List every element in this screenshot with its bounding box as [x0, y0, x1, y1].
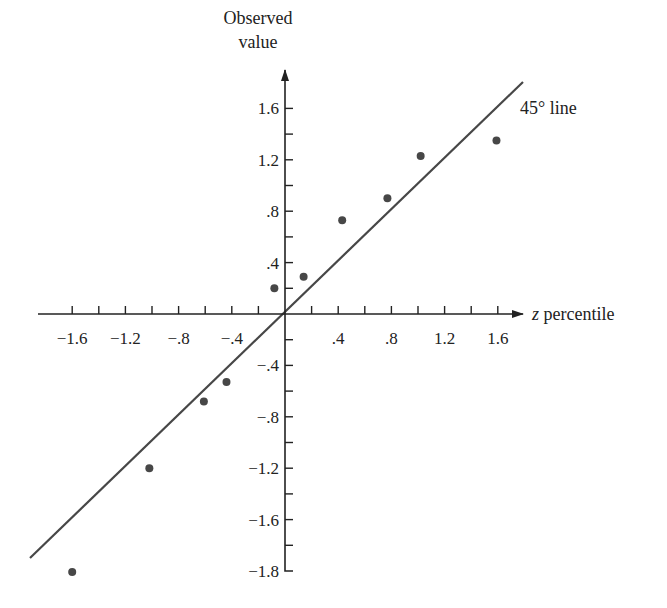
data-point: [270, 284, 278, 292]
x-tick-label: 1.6: [487, 329, 508, 348]
y-tick-label: −1.2: [248, 459, 279, 478]
y-axis-title-line1: Observed: [224, 8, 293, 28]
data-point: [383, 194, 391, 202]
y-tick-label: .8: [266, 202, 279, 221]
data-point: [145, 464, 153, 472]
y-tick-label: 1.6: [258, 99, 279, 118]
axes: −1.6−1.2−.8−.4.4.81.21.6 1.61.2.8.4−.4−.…: [38, 70, 523, 581]
qq-plot: −1.6−1.2−.8−.4.4.81.21.6 1.61.2.8.4−.4−.…: [0, 0, 667, 608]
x-tick-label: .8: [385, 329, 398, 348]
y-tick-label: −1.6: [248, 511, 279, 530]
x-axis-title-variable: z: [531, 304, 539, 324]
data-point: [300, 273, 308, 281]
y-axis-ticks: [285, 108, 293, 545]
x-axis-tick-labels: −1.6−1.2−.8−.4.4.81.21.6: [57, 329, 509, 348]
data-point: [200, 397, 208, 405]
x-tick-label: −.8: [167, 329, 189, 348]
reference-line-label: 45° line: [520, 98, 577, 118]
x-axis-title-text: percentile: [539, 304, 614, 324]
y-axis-title-line2: value: [239, 32, 278, 52]
y-tick-label: −.8: [257, 408, 279, 427]
x-tick-label: −1.2: [110, 329, 141, 348]
data-point: [222, 378, 230, 386]
x-tick-label: −1.6: [57, 329, 88, 348]
data-point: [417, 152, 425, 160]
y-axis-tick-labels: 1.61.2.8.4−.4−.8−1.2−1.6−1.8: [248, 99, 279, 581]
x-tick-label: 1.2: [434, 329, 455, 348]
data-point: [68, 568, 76, 576]
data-point: [338, 216, 346, 224]
data-point: [492, 137, 500, 145]
y-tick-label: −1.8: [248, 562, 279, 581]
y-axis: [285, 70, 293, 571]
y-tick-label: −.4: [257, 356, 280, 375]
y-tick-label: 1.2: [258, 151, 279, 170]
x-tick-label: .4: [332, 329, 345, 348]
x-tick-label: −.4: [221, 329, 244, 348]
x-axis-title: z percentile: [531, 304, 614, 324]
y-tick-label: .4: [266, 254, 279, 273]
